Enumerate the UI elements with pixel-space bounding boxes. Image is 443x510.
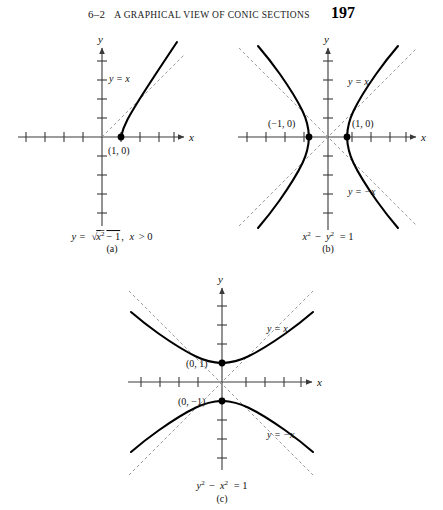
vertex-point-1-0 xyxy=(118,134,125,141)
asymptote-y-equals-x xyxy=(102,54,185,137)
caption-equation-a: y = √x2− 1, x > 0 xyxy=(70,230,152,242)
asymptote-label-y-equals-x: y = x xyxy=(266,323,288,334)
point-label-1-0: (1, 0) xyxy=(108,145,130,157)
running-head-title: A GRAPHICAL VIEW OF CONIC SECTIONS xyxy=(114,10,310,20)
asymptote-label-y-equals-x: y = x xyxy=(108,73,130,84)
textbook-page: 6–2 A GRAPHICAL VIEW OF CONIC SECTIONS 1… xyxy=(0,0,443,510)
caption-id-c: (c) xyxy=(216,493,227,505)
caption-id-a: (a) xyxy=(106,243,117,255)
caption-a: y = √x2− 1, x > 0 (a) xyxy=(70,230,152,255)
figure-b: x y (−1, 0) (1, 0) y = x y = −x x2 − y2 … xyxy=(224,26,438,256)
curve-left-branch-lower xyxy=(258,137,309,228)
point-label-0-1: (0, 1) xyxy=(186,358,208,370)
caption-c: y2 − x2 = 1 (c) xyxy=(196,479,248,505)
x-axis-label: x xyxy=(420,131,426,143)
y-axis-label: y xyxy=(323,33,329,45)
vertex-point-0-minus1 xyxy=(219,398,226,405)
point-label-minus1-0: (−1, 0) xyxy=(268,118,295,130)
y-axis-label: y xyxy=(97,33,103,45)
vertex-point-0-1 xyxy=(219,360,226,367)
curve-sqrt-x-squared-minus-one xyxy=(121,42,177,137)
y-axis-label: y xyxy=(217,273,223,285)
vertex-point-minus1-0 xyxy=(306,134,313,141)
x-axis-label: x xyxy=(188,131,194,143)
curve-lower-branch-right xyxy=(222,401,313,452)
asymptote-label-y-equals-negative-x: y = −x xyxy=(347,186,376,197)
curve-right-branch-lower xyxy=(347,137,398,228)
asymptote-label-y-equals-negative-x: y = −x xyxy=(266,429,295,440)
caption-equation-b: x2 − y2 = 1 xyxy=(302,230,354,242)
asymptotes-c xyxy=(129,291,313,475)
curve-upper-branch-left xyxy=(131,312,222,363)
point-label-1-0: (1, 0) xyxy=(352,118,374,130)
point-label-0-minus1: (0, −1) xyxy=(178,396,205,408)
x-axis-label: x xyxy=(316,376,322,388)
curve-lower-branch-left xyxy=(131,401,222,452)
section-number: 6–2 xyxy=(88,8,105,20)
asymptote-label-y-equals-x: y = x xyxy=(347,76,369,87)
figure-a: x y y = x (1, 0) y = √x2− 1, x > 0 (a) xyxy=(6,26,218,256)
caption-b: x2 − y2 = 1 (b) xyxy=(302,230,354,255)
figure-c: x y (0, 1) (0, −1) y = x y = −x y2 − x2 … xyxy=(110,262,342,510)
caption-id-b: (b) xyxy=(322,243,334,255)
running-head: 6–2 A GRAPHICAL VIEW OF CONIC SECTIONS 1… xyxy=(0,4,443,24)
vertex-point-1-0 xyxy=(344,134,351,141)
curve-upper-branch-right xyxy=(222,312,313,363)
caption-equation-c: y2 − x2 = 1 xyxy=(196,479,248,491)
page-number: 197 xyxy=(331,4,355,22)
